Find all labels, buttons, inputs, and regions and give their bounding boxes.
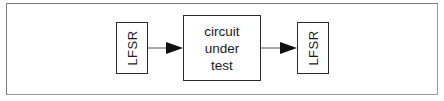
arrow-cut-to-lfsr xyxy=(261,42,297,54)
connector-arrows xyxy=(0,0,444,101)
arrow-lfsr-to-cut xyxy=(148,42,183,54)
